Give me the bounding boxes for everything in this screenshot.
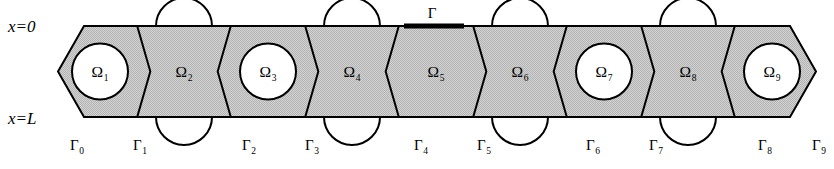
omega-glyph: Ω bbox=[764, 63, 776, 80]
gamma-subscript: 0 bbox=[79, 146, 84, 156]
axis-label-x-L: x=L bbox=[7, 109, 36, 128]
gamma-glyph: Γ bbox=[477, 137, 486, 153]
omega-glyph: Ω bbox=[92, 63, 104, 80]
gamma-glyph: Γ bbox=[758, 137, 767, 153]
interface-label-gamma-3: Γ3 bbox=[305, 137, 319, 156]
gamma-subscript: 1 bbox=[142, 146, 147, 156]
gamma-glyph: Γ bbox=[649, 137, 658, 153]
boundary-half-circle-bottom bbox=[492, 117, 548, 145]
boundary-half-circle-top bbox=[156, 0, 212, 26]
gamma-subscript: 8 bbox=[767, 146, 772, 156]
gamma-glyph: Γ bbox=[242, 137, 251, 153]
omega-glyph: Ω bbox=[428, 63, 440, 80]
axis-label-group: x=0x=L bbox=[7, 17, 36, 128]
gamma-subscript: 6 bbox=[595, 146, 600, 156]
gamma-subscript: 4 bbox=[423, 146, 428, 156]
omega-subscript: 7 bbox=[608, 73, 613, 83]
domain-decomposition-diagram: x=0x=L Ω1Ω2Ω3Ω4Ω5Ω6Ω7Ω8Ω9 Γ0Γ1Γ2Γ3Γ4Γ5Γ6… bbox=[0, 0, 834, 169]
omega-glyph: Ω bbox=[344, 63, 356, 80]
omega-subscript: 1 bbox=[104, 73, 109, 83]
gamma-subscript: 9 bbox=[821, 146, 826, 156]
gamma-subscript: 2 bbox=[251, 146, 256, 156]
omega-glyph: Ω bbox=[680, 63, 692, 80]
omega-subscript: 4 bbox=[356, 73, 361, 83]
interface-label-gamma-5: Γ5 bbox=[477, 137, 491, 156]
boundary-half-circle-bottom bbox=[324, 117, 380, 145]
omega-glyph: Ω bbox=[176, 63, 188, 80]
omega-subscript: 8 bbox=[692, 73, 697, 83]
omega-glyph: Ω bbox=[596, 63, 608, 80]
omega-glyph: Ω bbox=[512, 63, 524, 80]
boundary-half-circle-top bbox=[660, 0, 716, 26]
boundary-half-circle-top bbox=[492, 0, 548, 26]
boundary-half-circle-bottom bbox=[660, 117, 716, 145]
interface-label-gamma-7: Γ7 bbox=[649, 137, 663, 156]
gamma-subscript: 7 bbox=[658, 146, 663, 156]
gamma-glyph: Γ bbox=[70, 137, 79, 153]
interface-label-gamma-2: Γ2 bbox=[242, 137, 256, 156]
gamma-subscript: 3 bbox=[314, 146, 319, 156]
interface-label-gamma-1: Γ1 bbox=[133, 137, 147, 156]
interface-label-gamma-9: Γ9 bbox=[812, 137, 826, 156]
axis-label-x-zero: x=0 bbox=[7, 17, 36, 36]
interface-label-gamma-0: Γ0 bbox=[70, 137, 84, 156]
omega-subscript: 2 bbox=[188, 73, 193, 83]
gamma-glyph: Γ bbox=[586, 137, 595, 153]
omega-glyph: Ω bbox=[260, 63, 272, 80]
top-boundary-label-gamma: Γ bbox=[428, 5, 437, 21]
interface-label-gamma-8: Γ8 bbox=[758, 137, 772, 156]
omega-subscript: 6 bbox=[524, 73, 529, 83]
omega-subscript: 5 bbox=[440, 73, 445, 83]
gamma-interface-label-group: Γ0Γ1Γ2Γ3Γ4Γ5Γ6Γ7Γ8Γ9 bbox=[70, 137, 826, 156]
boundary-half-circle-bottom bbox=[156, 117, 212, 145]
gamma-glyph: Γ bbox=[305, 137, 314, 153]
interface-label-gamma-4: Γ4 bbox=[414, 137, 428, 156]
omega-subscript: 3 bbox=[272, 73, 277, 83]
gamma-top-label-group: Γ bbox=[428, 5, 437, 21]
omega-subscript: 9 bbox=[776, 73, 781, 83]
gamma-glyph: Γ bbox=[414, 137, 423, 153]
gamma-glyph: Γ bbox=[812, 137, 821, 153]
interface-label-gamma-6: Γ6 bbox=[586, 137, 600, 156]
gamma-subscript: 5 bbox=[486, 146, 491, 156]
figure-root: x=0x=L Ω1Ω2Ω3Ω4Ω5Ω6Ω7Ω8Ω9 Γ0Γ1Γ2Γ3Γ4Γ5Γ6… bbox=[0, 0, 834, 169]
boundary-half-circle-top bbox=[324, 0, 380, 26]
gamma-glyph: Γ bbox=[133, 137, 142, 153]
